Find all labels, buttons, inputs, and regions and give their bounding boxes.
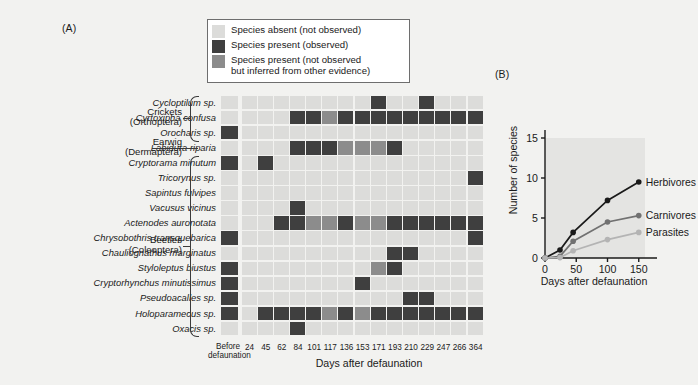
heatmap-cell-absent	[387, 277, 402, 290]
heatmap-cell-absent	[338, 262, 353, 275]
heatmap-cell-absent	[387, 231, 402, 244]
species-label: Vacusus vicinus	[149, 203, 216, 213]
heatmap-cell-absent	[242, 141, 257, 154]
group-label: Crickets (Orthoptera)	[62, 107, 182, 128]
heatmap-cell-absent	[435, 292, 450, 305]
heatmap-cell-present-observed	[258, 307, 273, 320]
heatmap-cell-present-observed	[306, 307, 321, 320]
heatmap-cell-before-present-observed	[221, 277, 238, 290]
heatmap-cell-before-absent	[221, 96, 238, 109]
before-defaunation-label: Before defaunation	[208, 342, 248, 361]
heatmap-cell-absent	[274, 171, 289, 184]
heatmap-cell-absent	[387, 186, 402, 199]
heatmap-cell-before-present-observed	[221, 262, 238, 275]
heatmap-cell-absent	[322, 292, 337, 305]
heatmap-cell-absent	[338, 156, 353, 169]
heatmap-cell-absent	[322, 96, 337, 109]
heatmap-cell-absent	[242, 126, 257, 139]
heatmap-cell-absent	[242, 156, 257, 169]
heatmap-cell-present-observed	[387, 111, 402, 124]
heatmap-cell-present-observed	[290, 141, 305, 154]
heatmap-cell-absent	[419, 247, 434, 260]
group-label: Earwig (Dermaptera)	[62, 137, 182, 158]
heatmap-cell-absent	[306, 201, 321, 214]
heatmap-cell-present-observed	[274, 216, 289, 229]
heatmap-cell-before-absent	[221, 216, 238, 229]
heatmap-cell-absent	[468, 156, 483, 169]
heatmap-cell-absent	[242, 171, 257, 184]
heatmap-cell-absent	[468, 322, 483, 335]
heatmap-cell-present-observed	[419, 216, 434, 229]
heatmap-cell-absent	[387, 322, 402, 335]
heatmap-cell-absent	[258, 141, 273, 154]
heatmap-cell-absent	[468, 186, 483, 199]
heatmap-cell-present-observed	[371, 96, 386, 109]
heatmap-cell-present-observed	[468, 171, 483, 184]
heatmap-cell-absent	[290, 96, 305, 109]
heatmap-cell-absent	[306, 231, 321, 244]
heatmap-cell-before-absent	[221, 111, 238, 124]
panel-b-point-herbivores	[636, 179, 642, 185]
heatmap-cell-absent	[242, 322, 257, 335]
heatmap-cell-absent	[242, 277, 257, 290]
panel-b-x-tick-label: 50	[570, 263, 582, 275]
heatmap-cell-absent	[274, 111, 289, 124]
group-bracket	[190, 156, 199, 337]
heatmap-cell-absent	[290, 171, 305, 184]
heatmap-cell-absent	[355, 186, 370, 199]
heatmap-cell-present-observed	[274, 307, 289, 320]
heatmap-cell-absent	[290, 277, 305, 290]
panel-b-svg: 051015050100150HerbivoresCarnivoresParas…	[490, 60, 698, 385]
heatmap-cell-absent	[451, 277, 466, 290]
group-bracket	[190, 96, 199, 142]
heatmap-cell-absent	[451, 171, 466, 184]
panel-b-point-parasites	[605, 237, 611, 243]
heatmap-cell-present-observed	[419, 111, 434, 124]
heatmap-cell-absent	[435, 126, 450, 139]
heatmap-cell-absent	[371, 171, 386, 184]
heatmap-cell-absent	[322, 322, 337, 335]
panel-b-y-tick-label: 15	[526, 132, 538, 144]
heatmap-cell-absent	[419, 186, 434, 199]
heatmap-cell-absent	[355, 201, 370, 214]
heatmap-cell-absent	[338, 292, 353, 305]
heatmap-cell-present-inferred	[371, 141, 386, 154]
species-label: Sapintus fulvipes	[145, 188, 216, 198]
heatmap-cell-present-observed	[387, 141, 402, 154]
heatmap-cell-present-observed	[290, 322, 305, 335]
heatmap-cell-absent	[419, 171, 434, 184]
heatmap-cell-absent	[435, 171, 450, 184]
heatmap-cell-present-observed	[419, 307, 434, 320]
heatmap-cell-present-observed	[403, 216, 418, 229]
heatmap-cell-absent	[274, 156, 289, 169]
heatmap-cell-present-observed	[403, 292, 418, 305]
heatmap-cell-before-present-observed	[221, 307, 238, 320]
heatmap-cell-absent	[338, 201, 353, 214]
heatmap-cell-absent	[306, 292, 321, 305]
panel-b-point-parasites	[542, 255, 548, 261]
heatmap-cell-present-observed	[258, 156, 273, 169]
heatmap-cell-absent	[338, 322, 353, 335]
heatmap-cell-before-absent	[221, 247, 238, 260]
species-label: Styloleptus biustus	[138, 263, 216, 273]
heatmap-cell-absent	[403, 277, 418, 290]
figure-root: (A) (B) Species absent (not observed) Sp…	[0, 0, 698, 385]
heatmap-cell-absent	[274, 201, 289, 214]
heatmap-cell-absent	[371, 156, 386, 169]
heatmap-cell-absent	[274, 292, 289, 305]
heatmap-cell-present-observed	[306, 141, 321, 154]
heatmap-cell-absent	[274, 186, 289, 199]
heatmap-cell-present-observed	[322, 141, 337, 154]
panel-b-point-parasites	[557, 255, 563, 261]
heatmap-cell-absent	[387, 96, 402, 109]
heatmap-cell-absent	[371, 201, 386, 214]
heatmap-cell-absent	[306, 171, 321, 184]
heatmap-cell-present-observed	[355, 277, 370, 290]
heatmap-cell-absent	[322, 277, 337, 290]
heatmap-cell-absent	[290, 292, 305, 305]
heatmap-cell-absent	[290, 156, 305, 169]
heatmap-cell-absent	[290, 247, 305, 260]
heatmap-cell-absent	[290, 262, 305, 275]
panel-b-point-parasites	[636, 230, 642, 236]
heatmap-cell-present-inferred	[322, 111, 337, 124]
